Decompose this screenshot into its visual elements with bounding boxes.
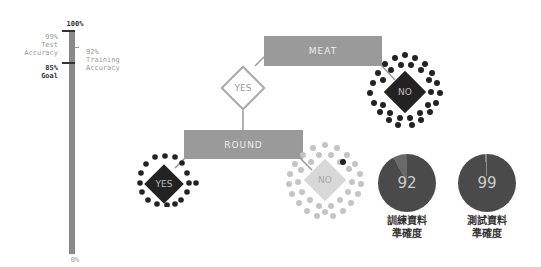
meat-yes-branch: YES — [222, 67, 264, 109]
meat-no-branch: NO — [383, 70, 427, 114]
test-accuracy-pie: 99 — [458, 154, 516, 212]
test-accuracy-pie-label: 測試資料 準確度 — [452, 214, 522, 240]
training-accuracy-pie: 92 — [378, 154, 436, 212]
round-yes-branch: YES — [143, 163, 185, 205]
training-accuracy-pie-label: 訓練資料 準確度 — [372, 214, 442, 240]
round-no-branch: NO — [303, 158, 347, 202]
